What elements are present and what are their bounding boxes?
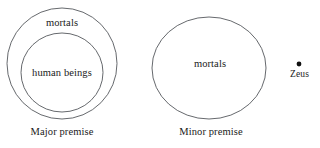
zeus-point-label: Zeus [279,70,320,80]
zeus-point-dot [297,62,302,67]
major-premise-inner-set-label: human beings [0,68,124,79]
euler-diagram-figure: mortals human beings Major premise morta… [0,0,320,148]
major-premise-outer-set-label: mortals [0,18,124,29]
minor-premise-set-label: mortals [150,59,270,70]
major-premise-caption: Major premise [0,127,124,138]
minor-premise-caption: Minor premise [148,127,274,138]
